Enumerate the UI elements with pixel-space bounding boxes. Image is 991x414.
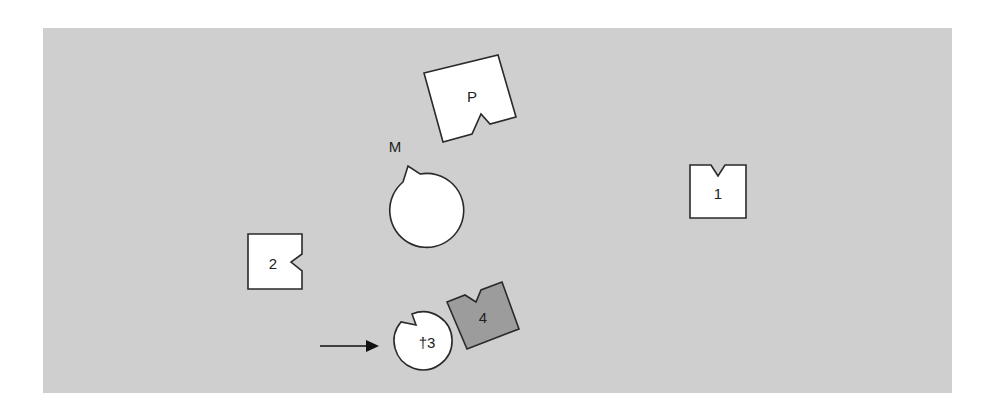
shape-2-label: 2 xyxy=(269,255,277,272)
shape-3-label: †3 xyxy=(419,334,436,351)
shape-4-label: 4 xyxy=(479,309,487,326)
shape-1-label: 1 xyxy=(714,185,722,202)
shape-p-label: P xyxy=(467,88,477,105)
shape-m-label: M xyxy=(389,138,402,155)
diagram-canvas: M P 1 2 †3 4 xyxy=(0,0,991,414)
